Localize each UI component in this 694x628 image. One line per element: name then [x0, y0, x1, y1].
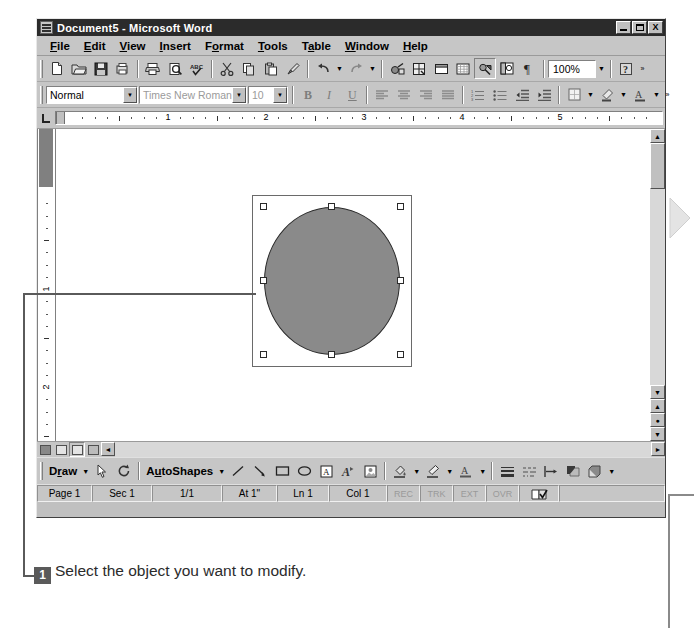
status-flag-rec[interactable]: REC [387, 485, 420, 502]
justify-icon[interactable] [437, 84, 459, 105]
minimize-button[interactable] [616, 21, 631, 34]
scroll-down-arrow-icon[interactable]: ▼ [650, 385, 665, 399]
redo-icon[interactable] [345, 58, 367, 79]
format-painter-icon[interactable] [282, 58, 304, 79]
align-center-icon[interactable] [393, 84, 415, 105]
highlight-icon[interactable] [596, 84, 618, 105]
insert-excel-sheet-icon[interactable] [452, 58, 474, 79]
tables-and-borders-icon[interactable] [408, 58, 430, 79]
undo-dropdown-arrow-icon[interactable]: ▼ [334, 58, 345, 79]
zoom-combo[interactable]: 100% [548, 60, 596, 78]
borders-dropdown-arrow-icon[interactable]: ▼ [585, 84, 596, 105]
menu-format[interactable]: Format [198, 40, 251, 52]
mail-recipient-icon[interactable] [112, 58, 134, 79]
font-color-icon[interactable]: A [629, 84, 651, 105]
resize-handle-middle-left[interactable] [260, 277, 267, 284]
scrollbar-track[interactable] [650, 189, 665, 385]
scroll-up-arrow-icon[interactable]: ▲ [650, 129, 665, 143]
insert-wordart-icon[interactable]: A [337, 461, 359, 482]
menu-edit[interactable]: Edit [77, 40, 113, 52]
line-color-dropdown-arrow-icon[interactable]: ▼ [444, 461, 455, 482]
vertical-scrollbar[interactable]: ▲ ▼ ▲ ● ▼ [650, 129, 665, 441]
font-size-combo[interactable]: 10 ▼ [248, 86, 288, 104]
menu-window[interactable]: Window [338, 40, 396, 52]
close-button[interactable]: X [648, 21, 663, 34]
toolbar-grip[interactable] [40, 86, 43, 104]
spelling-check-icon[interactable]: ABC [186, 58, 208, 79]
shadow-icon[interactable] [562, 461, 584, 482]
font-combo[interactable]: Times New Roman ▼ [139, 86, 247, 104]
paste-clipboard-icon[interactable] [260, 58, 282, 79]
resize-handle-bottom-center[interactable] [328, 351, 335, 358]
show-formatting-marks-icon[interactable]: ¶ [518, 58, 540, 79]
resize-handle-bottom-left[interactable] [260, 351, 267, 358]
menu-table[interactable]: Table [295, 40, 338, 52]
text-box-icon[interactable]: A [315, 461, 337, 482]
font-color-dropdown-arrow-icon[interactable]: ▼ [477, 461, 488, 482]
italic-button[interactable]: I [319, 84, 341, 105]
menu-tools[interactable]: Tools [251, 40, 295, 52]
resize-handle-bottom-right[interactable] [397, 351, 404, 358]
resize-handle-top-right[interactable] [397, 203, 404, 210]
decrease-indent-icon[interactable] [511, 84, 533, 105]
style-combo[interactable]: Normal ▼ [46, 86, 138, 104]
menu-file[interactable]: File [43, 40, 77, 52]
dash-style-icon[interactable] [518, 461, 540, 482]
resize-handle-top-center[interactable] [328, 203, 335, 210]
scroll-right-arrow-icon[interactable]: ► [651, 442, 665, 456]
arrow-style-icon[interactable] [540, 461, 562, 482]
underline-button[interactable]: U [341, 84, 363, 105]
help-button[interactable]: ? [615, 58, 637, 79]
fill-color-icon[interactable] [389, 461, 411, 482]
insert-table-icon[interactable] [430, 58, 452, 79]
status-flag-ext[interactable]: EXT [453, 485, 486, 502]
rectangle-icon[interactable] [271, 461, 293, 482]
insert-clip-art-icon[interactable] [359, 461, 381, 482]
copy-icon[interactable] [238, 58, 260, 79]
drawing-icon[interactable] [474, 58, 496, 79]
chevron-down-icon[interactable]: ▼ [123, 87, 137, 103]
toolbar-overflow-icon[interactable]: ▼ [606, 461, 617, 482]
font-color-icon[interactable]: A [455, 461, 477, 482]
toolbar-overflow-icon[interactable]: » [637, 58, 648, 79]
chevron-down-icon[interactable]: ▼ [232, 87, 246, 103]
open-folder-icon[interactable] [68, 58, 90, 79]
select-browse-object-button[interactable]: ● [650, 413, 665, 427]
highlight-dropdown-arrow-icon[interactable]: ▼ [618, 84, 629, 105]
numbered-list-icon[interactable]: 123 [467, 84, 489, 105]
restore-button[interactable] [632, 21, 647, 34]
bulleted-list-icon[interactable] [489, 84, 511, 105]
tab-selector-button[interactable] [37, 108, 55, 128]
next-page-button[interactable]: ▼ [650, 427, 665, 441]
menu-insert[interactable]: Insert [153, 40, 198, 52]
bold-button[interactable]: B [297, 84, 319, 105]
resize-handle-top-left[interactable] [260, 203, 267, 210]
menu-view[interactable]: View [113, 40, 153, 52]
insert-hyperlink-icon[interactable] [386, 58, 408, 79]
3d-icon[interactable] [584, 461, 606, 482]
new-document-icon[interactable] [46, 58, 68, 79]
oval-shape[interactable] [264, 207, 400, 355]
save-disk-icon[interactable] [90, 58, 112, 79]
oval-icon[interactable] [293, 461, 315, 482]
toolbar-overflow-icon[interactable]: » [662, 84, 673, 105]
selected-shape[interactable] [252, 195, 412, 367]
font-color-dropdown-arrow-icon[interactable]: ▼ [651, 84, 662, 105]
toolbar-grip[interactable] [40, 60, 43, 78]
print-icon[interactable] [142, 58, 164, 79]
print-preview-icon[interactable] [164, 58, 186, 79]
cut-scissors-icon[interactable] [216, 58, 238, 79]
menu-help[interactable]: Help [396, 40, 435, 52]
increase-indent-icon[interactable] [533, 84, 555, 105]
align-right-icon[interactable] [415, 84, 437, 105]
align-left-icon[interactable] [371, 84, 393, 105]
redo-dropdown-arrow-icon[interactable]: ▼ [367, 58, 378, 79]
status-flag-ovr[interactable]: OVR [486, 485, 519, 502]
document-map-icon[interactable] [496, 58, 518, 79]
line-style-icon[interactable] [496, 461, 518, 482]
horizontal-ruler[interactable]: 12345 [55, 111, 663, 125]
previous-page-button[interactable]: ▲ [650, 399, 665, 413]
resize-handle-middle-right[interactable] [397, 277, 404, 284]
chevron-down-icon[interactable]: ▼ [273, 87, 287, 103]
spelling-status-icon[interactable] [519, 485, 559, 502]
